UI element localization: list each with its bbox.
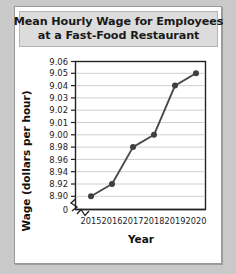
y-tick-label: 9.03 — [49, 93, 68, 103]
chart-title-line-1: Mean Hourly Wage for Employees — [14, 15, 224, 29]
chart-title-line-2: at a Fast-Food Restaurant — [38, 29, 200, 43]
x-tick-label: 2017 — [123, 216, 144, 226]
y-tick-label: 8.92 — [49, 179, 68, 189]
y-tick-label: 9.06 — [49, 57, 68, 67]
data-point[interactable] — [88, 193, 94, 199]
x-axis-tick-labels: 2015 2016 2017 2018 2019 2020 — [81, 216, 207, 226]
plot-frame — [76, 62, 206, 210]
x-axis-break-icon — [77, 210, 89, 216]
x-tick-label: 2020 — [186, 216, 207, 226]
y-tick-label: 9.00 — [49, 130, 68, 140]
y-tick-label: 8.96 — [49, 155, 68, 165]
y-tick-label: 8.94 — [49, 167, 68, 177]
data-point[interactable] — [172, 83, 178, 89]
y-tick-label-zero: 0 — [63, 205, 68, 215]
chart-svg: Wage (dollars per hour) — [15, 49, 221, 263]
x-tick-label: 2018 — [144, 216, 165, 226]
x-axis-title: Year — [127, 233, 155, 245]
x-tick-label: 2015 — [81, 216, 102, 226]
y-tick-label: 9.02 — [49, 105, 68, 115]
y-tick-label: 8.98 — [49, 142, 68, 152]
x-tick-label: 2016 — [102, 216, 123, 226]
line-chart: Wage (dollars per hour) — [15, 49, 221, 263]
x-tick-label: 2019 — [165, 216, 186, 226]
data-point[interactable] — [109, 181, 115, 187]
y-tick-label: 9.04 — [49, 81, 68, 91]
y-tick-label: 9.05 — [49, 68, 68, 78]
y-tick-label: 9.01 — [49, 118, 68, 128]
chart-title-bar: Mean Hourly Wage for Employees at a Fast… — [19, 11, 218, 47]
data-point[interactable] — [193, 70, 199, 76]
data-point[interactable] — [151, 132, 157, 138]
data-point[interactable] — [130, 144, 136, 150]
y-tick-label: 8.90 — [49, 191, 68, 201]
y-axis-tick-labels: 9.06 9.05 9.04 9.03 9.02 9.01 9.00 8.98 … — [49, 57, 68, 215]
y-axis-title: Wage (dollars per hour) — [20, 90, 32, 231]
figure-card: Mean Hourly Wage for Employees at a Fast… — [14, 6, 222, 264]
